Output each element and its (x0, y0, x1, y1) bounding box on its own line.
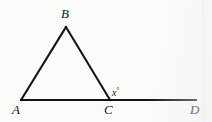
angle-label-x: x° (112, 85, 119, 98)
vertex-label-b: B (61, 7, 69, 20)
vertex-label-c: C (104, 103, 113, 116)
degree-symbol: ° (116, 86, 119, 94)
geometry-figure: A B C D x° (0, 0, 212, 122)
segment-BC (66, 27, 110, 100)
vertex-label-a: A (12, 103, 20, 116)
segment-AB (21, 27, 66, 100)
page-edge-artifact (203, 0, 204, 122)
vertex-label-d: D (190, 103, 199, 116)
